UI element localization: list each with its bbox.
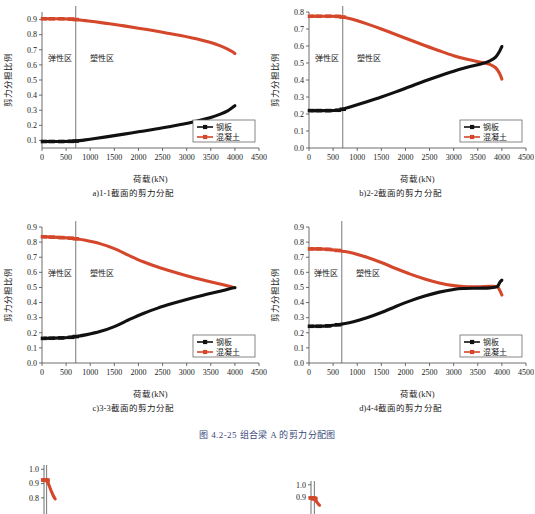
y-tick-label: 0.0 [294, 359, 304, 368]
series-marker [41, 17, 47, 21]
y-tick-label: 0.9 [27, 223, 37, 232]
x-tick-label: 1500 [373, 153, 389, 162]
y-tick-label: 0.3 [27, 313, 37, 322]
y-tick-label: 0.2 [27, 329, 37, 338]
y-tick-label: 0.9 [296, 493, 306, 502]
y-tick-label: 0.8 [29, 494, 39, 503]
zone-label-plastic: 塑性区 [356, 268, 380, 278]
chart-legend: 钢板混凝土 [460, 120, 522, 142]
y-tick-label: 0.8 [27, 238, 37, 247]
legend-item-concrete-label: 混凝土 [216, 347, 240, 357]
legend-item-concrete-marker [470, 135, 474, 139]
y-tick-label: 0.6 [294, 42, 304, 51]
figure-caption: 图 4.2-25 组合梁 A 的剪力分配图 [0, 428, 535, 441]
y-tick-label: 0.8 [294, 238, 304, 247]
series-marker [335, 323, 341, 327]
x-tick-label: 3000 [446, 368, 462, 377]
y-tick-label: 0.4 [294, 76, 304, 85]
series-marker [325, 109, 331, 113]
x-tick-label: 1500 [106, 368, 122, 377]
series-marker [315, 324, 321, 328]
series-marker [43, 479, 49, 483]
x-tick-label: 3500 [470, 153, 486, 162]
y-axis-title: 剪力分担比例 [270, 53, 280, 107]
x-tick-label: 2500 [422, 368, 438, 377]
y-tick-label: 0.1 [294, 127, 304, 136]
x-tick-label: 4000 [227, 368, 243, 377]
x-tick-label: 3500 [203, 153, 219, 162]
y-tick-label: 0.9 [29, 479, 39, 488]
x-tick-label: 2500 [422, 153, 438, 162]
zone-label-plastic: 塑性区 [90, 268, 114, 278]
y-tick-label: 0.9 [294, 223, 304, 232]
x-axis-title: 荷载(kN) [133, 174, 167, 184]
chart-svg-bottom-left: 1.00.90.8 [18, 461, 268, 514]
chart-b: 0.00.10.20.30.40.50.60.70.80500100015002… [267, 0, 534, 188]
y-tick-label: 0.2 [27, 121, 37, 130]
x-tick-label: 4500 [518, 368, 534, 377]
series-marker [325, 248, 331, 252]
y-tick-label: 0.5 [294, 283, 304, 292]
zone-label-elastic: 弹性区 [48, 268, 72, 278]
x-tick-label: 1000 [349, 368, 365, 377]
x-tick-label: 500 [60, 368, 72, 377]
series-marker [73, 18, 79, 22]
x-tick-label: 3500 [470, 368, 486, 377]
x-tick-label: 1500 [106, 153, 122, 162]
y-tick-label: 0.8 [294, 8, 304, 17]
series-marker [41, 235, 47, 239]
zone-label-plastic: 塑性区 [357, 53, 381, 63]
series-marker [58, 140, 64, 144]
y-axis-title: 剪力分担比例 [3, 268, 13, 322]
x-tick-label: 0 [307, 153, 311, 162]
chart-svg-d: 0.00.10.20.30.40.50.60.70.80.90500100015… [267, 215, 534, 403]
legend-item-steel-marker [203, 340, 207, 344]
y-tick-label: 0.7 [294, 25, 304, 34]
y-tick-label: 0.7 [27, 253, 37, 262]
y-tick-label: 0.5 [27, 76, 37, 85]
y-tick-label: 0.5 [294, 59, 304, 68]
series-marker [41, 337, 47, 341]
chart-legend: 钢板混凝土 [193, 335, 255, 357]
y-tick-label: 0.6 [27, 268, 37, 277]
chart-legend: 钢板混凝土 [460, 335, 522, 357]
y-tick-label: 0.3 [294, 313, 304, 322]
y-tick-label: 0.7 [294, 253, 304, 262]
series-marker [48, 336, 54, 340]
x-tick-label: 4500 [251, 153, 267, 162]
chart-panel-d: 0.00.10.20.30.40.50.60.70.80.90500100015… [267, 215, 534, 430]
chart-svg-c: 0.00.10.20.30.40.50.60.70.80.90500100015… [0, 215, 267, 403]
series-marker [315, 14, 321, 18]
series-marker [73, 237, 79, 241]
legend-item-concrete-marker [470, 350, 474, 354]
series-marker [340, 15, 346, 19]
series-marker [340, 107, 346, 111]
series-marker [48, 140, 54, 144]
zone-label-elastic: 弹性区 [48, 53, 72, 63]
legend-item-steel-marker [470, 125, 474, 129]
x-tick-label: 1000 [82, 153, 98, 162]
chart-svg-bottom-right: 1.00.9 [285, 477, 535, 514]
zone-label-elastic: 弹性区 [315, 53, 339, 63]
x-tick-label: 3000 [179, 153, 195, 162]
y-tick-label: 0.8 [27, 30, 37, 39]
chart-svg-b: 0.00.10.20.30.40.50.60.70.80500100015002… [267, 0, 534, 188]
x-tick-label: 4000 [494, 368, 510, 377]
series-marker [315, 247, 321, 251]
x-tick-label: 4500 [518, 153, 534, 162]
series-marker [308, 247, 314, 251]
y-tick-label: 0.3 [294, 93, 304, 102]
x-tick-label: 500 [327, 153, 339, 162]
series-line-concrete [44, 480, 55, 499]
y-tick-label: 0.6 [27, 61, 37, 70]
x-tick-label: 2500 [155, 153, 171, 162]
y-tick-label: 0.4 [27, 298, 37, 307]
y-tick-label: 0.0 [27, 359, 37, 368]
x-tick-label: 2000 [130, 368, 146, 377]
series-marker [308, 109, 314, 113]
series-marker [73, 139, 79, 143]
y-tick-label: 0.5 [27, 283, 37, 292]
legend-item-steel-label: 钢板 [483, 337, 499, 347]
x-axis-title: 荷载(kN) [400, 389, 434, 399]
legend-item-concrete-label: 混凝土 [216, 132, 240, 142]
